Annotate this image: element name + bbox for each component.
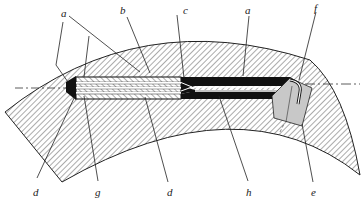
label-d-left: d xyxy=(33,186,39,198)
label-g: g xyxy=(95,186,101,198)
label-f: f xyxy=(314,2,319,14)
label-e: e xyxy=(311,186,316,198)
label-c: c xyxy=(183,4,188,16)
label-b: b xyxy=(120,4,126,16)
cross-section-diagram: a b c a f d g d h e xyxy=(0,0,363,203)
label-a-right: a xyxy=(245,4,251,16)
layered-tube-assembly xyxy=(76,77,181,99)
label-d-right: d xyxy=(167,186,173,198)
label-h: h xyxy=(246,186,252,198)
label-a-left: a xyxy=(61,7,67,19)
